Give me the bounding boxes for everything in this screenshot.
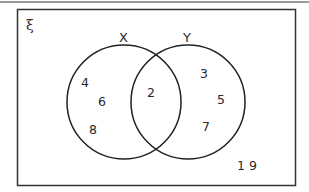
- set-y-label: Y: [182, 30, 191, 45]
- outside-elements: 1 9: [237, 158, 257, 173]
- y-only-element: 3: [200, 66, 208, 81]
- y-only-element: 5: [217, 92, 225, 107]
- set-y-circle: [131, 45, 245, 159]
- x-only-element: 6: [98, 94, 106, 109]
- y-only-element: 7: [202, 119, 210, 134]
- venn-diagram: ξ X Y 4 6 8 2 3 5 7 1 9: [0, 0, 309, 192]
- universal-set-symbol: ξ: [26, 17, 34, 33]
- set-x-circle: [67, 45, 181, 159]
- x-only-element: 8: [89, 122, 97, 137]
- set-x-label: X: [119, 30, 128, 45]
- x-only-element: 4: [81, 75, 89, 90]
- intersection-element: 2: [147, 85, 155, 100]
